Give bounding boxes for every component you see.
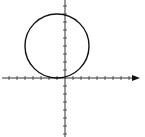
axis-ticks [9, 6, 129, 134]
circle-shape [25, 14, 89, 78]
x-axis-arrow-icon [132, 75, 140, 81]
coordinate-plane [0, 0, 145, 137]
